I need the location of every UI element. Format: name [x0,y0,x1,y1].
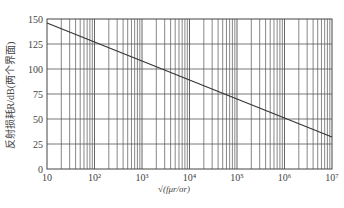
y-tick-label: 75 [33,89,43,100]
x-tick-label: 10³ [136,172,149,183]
x-tick-label: 10 [42,172,52,183]
y-axis-label: 反射损耗R/dB(两个界面) [2,20,18,170]
x-tick-label: 10⁶ [278,172,292,183]
x-tick-label: 10⁵ [230,172,244,183]
x-axis-label: √(fμr/σr) [158,184,190,194]
x-tick-labels: 1010²10³10⁴10⁵10⁶10⁷ [42,172,339,183]
x-tick-label: 10⁷ [325,172,339,183]
y-tick-label: 150 [28,14,43,25]
x-tick-label: 10² [88,172,101,183]
y-tick-label: 25 [33,139,43,150]
y-tick-labels: 0255075100125150 [28,14,43,175]
reflection-loss-chart: 0255075100125150 1010²10³10⁴10⁵10⁶10⁷ [0,0,344,208]
y-tick-label: 125 [28,39,43,50]
y-tick-label: 100 [28,64,43,75]
x-tick-label: 10⁴ [183,172,197,183]
y-axis-label-text: 反射损耗R/dB(两个界面) [3,41,18,149]
y-tick-label: 50 [33,114,43,125]
